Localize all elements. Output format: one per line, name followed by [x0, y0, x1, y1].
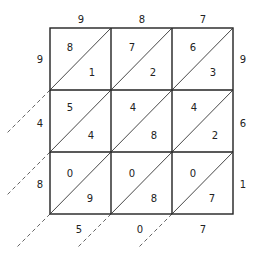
cell-tens: 6: [190, 42, 196, 53]
left-digit: 8: [37, 179, 43, 190]
cell-ones: 3: [210, 67, 216, 78]
cell-tens: 5: [67, 102, 73, 113]
cell-ones: 2: [150, 67, 156, 78]
bottom-digit: 7: [200, 224, 206, 235]
top-digit: 9: [78, 14, 84, 25]
cell-tens: 4: [130, 102, 136, 113]
cell-ones: 1: [89, 67, 95, 78]
cell-ones: 8: [151, 130, 157, 141]
right-digit: 6: [240, 118, 246, 129]
cell-tens: 7: [129, 42, 135, 53]
cell-tens: 4: [191, 102, 197, 113]
cell-tens: 0: [190, 168, 196, 179]
right-digit: 9: [240, 54, 246, 65]
left-digit: 9: [37, 54, 43, 65]
cell-tens: 0: [67, 168, 73, 179]
cell-ones: 9: [87, 193, 93, 204]
top-digit: 8: [139, 14, 145, 25]
right-digit: 1: [240, 179, 246, 190]
cell-tens: 0: [129, 168, 135, 179]
diagonal-extensions: [6, 90, 172, 248]
cell-ones: 8: [151, 193, 157, 204]
bottom-digit: 5: [76, 224, 82, 235]
top-digit: 7: [200, 14, 206, 25]
cell-tens: 8: [67, 42, 73, 53]
cell-diagonals: [50, 28, 233, 214]
cell-ones: 2: [212, 130, 218, 141]
bottom-digit: 0: [137, 224, 143, 235]
left-digit: 4: [37, 118, 43, 129]
cell-ones: 4: [88, 130, 94, 141]
cell-ones: 7: [209, 193, 215, 204]
lattice-diagram: 9 8 7 9 4 8 9 6 1 5 0 7 8 1 7 2 6 3 5 4 …: [0, 0, 258, 267]
